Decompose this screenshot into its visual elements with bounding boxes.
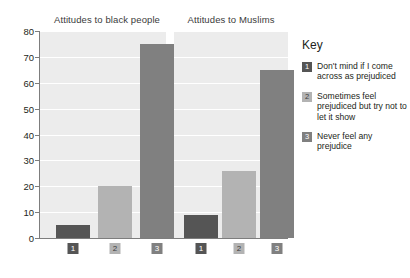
legend-entry: 2Sometimes feel prejudiced but try not t… (302, 91, 408, 122)
bar (222, 171, 256, 238)
x-axis-category-chip: 2 (110, 243, 121, 254)
y-axis-tick-label: 0 (0, 233, 34, 244)
x-axis-category-chip: 1 (68, 243, 79, 254)
plot-area (40, 31, 288, 238)
bar (184, 215, 218, 238)
x-axis-line (39, 238, 288, 239)
legend-label: Sometimes feel prejudiced but try not to… (317, 91, 408, 122)
bar (56, 225, 90, 238)
x-axis-category-chip: 2 (234, 243, 245, 254)
y-axis-tick (35, 212, 39, 213)
legend-swatch: 2 (302, 92, 312, 102)
gridline (40, 31, 288, 32)
bar (260, 70, 294, 238)
y-axis-tick-label: 40 (0, 129, 34, 140)
legend: Key 1Don't mind if I come across as prej… (302, 38, 408, 161)
y-axis-tick-label: 50 (0, 103, 34, 114)
x-axis-category-chip: 3 (152, 243, 163, 254)
y-axis-tick (35, 160, 39, 161)
bar (98, 186, 132, 238)
panel-titles: Attitudes to black people Attitudes to M… (40, 14, 288, 25)
y-axis-tick-label: 80 (0, 26, 34, 37)
x-axis-category-chip: 1 (196, 243, 207, 254)
chart-figure: Attitudes to black people Attitudes to M… (0, 0, 410, 278)
legend-label: Don't mind if I come across as prejudice… (317, 61, 408, 82)
legend-swatch: 3 (302, 132, 312, 142)
y-axis-tick (35, 186, 39, 187)
y-axis-tick (35, 31, 39, 32)
x-axis-category-chip: 3 (272, 243, 283, 254)
y-axis-tick (35, 109, 39, 110)
legend-title: Key (302, 38, 408, 52)
legend-entry: 1Don't mind if I come across as prejudic… (302, 61, 408, 82)
y-axis-tick-label: 20 (0, 181, 34, 192)
y-axis-tick-label: 10 (0, 207, 34, 218)
y-axis-tick-label: 70 (0, 51, 34, 62)
panel-title-muslims: Attitudes to Muslims (174, 14, 288, 25)
y-axis-tick-label: 60 (0, 77, 34, 88)
y-axis-tick (35, 57, 39, 58)
bar-chart: Attitudes to black people Attitudes to M… (0, 0, 292, 278)
legend-label: Never feel any prejudice (317, 131, 408, 152)
bar (140, 44, 174, 238)
y-axis-tick (35, 83, 39, 84)
legend-entries: 1Don't mind if I come across as prejudic… (302, 61, 408, 152)
y-axis-labels: 01020304050607080 (0, 31, 34, 238)
panel-title-black-people: Attitudes to black people (40, 14, 174, 25)
legend-swatch: 1 (302, 62, 312, 72)
y-axis-tick (35, 135, 39, 136)
x-axis-labels: 123123 (40, 243, 288, 261)
y-axis-tick-label: 30 (0, 155, 34, 166)
y-axis-tick (35, 238, 39, 239)
legend-entry: 3Never feel any prejudice (302, 131, 408, 152)
